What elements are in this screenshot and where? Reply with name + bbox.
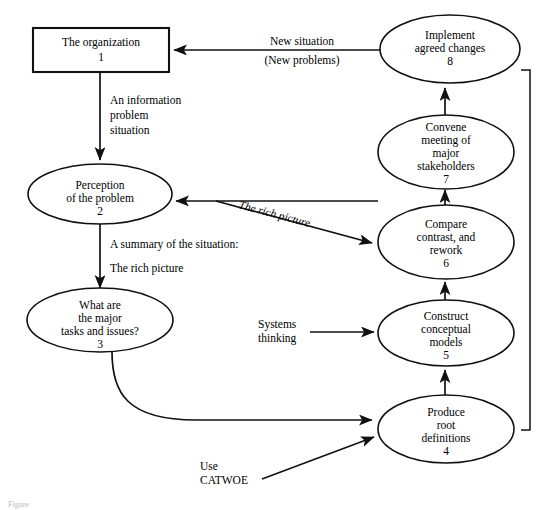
node-1-shape bbox=[33, 28, 169, 72]
edge-tasks-to-rootdefs bbox=[112, 352, 372, 420]
edge-label-an-information-problem-situation: An information problem situation bbox=[110, 94, 181, 136]
catwoe-line1: Use bbox=[200, 460, 218, 472]
node-4-number: 4 bbox=[443, 445, 449, 457]
node-convene-meeting-of-major-stakeholders[interactable]: Convene meeting of major stakeholders 7 bbox=[378, 115, 514, 189]
node-4-line2: root bbox=[437, 419, 456, 431]
diagram-canvas: The organization 1 Perception of the pro… bbox=[0, 0, 540, 510]
edge-label-the-rich-picture: The rich picture bbox=[237, 198, 312, 230]
edge-label-new-situation: New situation (New problems) bbox=[264, 35, 339, 67]
rich-picture-label: The rich picture bbox=[237, 198, 312, 230]
an-information-line2: problem bbox=[110, 109, 148, 122]
node-2-line2: of the problem bbox=[66, 192, 134, 205]
flow-diagram: The organization 1 Perception of the pro… bbox=[0, 0, 540, 510]
edge-catwoe-to-rootdefs bbox=[262, 437, 374, 479]
node-3-number: 3 bbox=[97, 338, 103, 350]
node-7-number: 7 bbox=[443, 173, 449, 185]
node-the-organization[interactable]: The organization 1 bbox=[33, 28, 169, 72]
node-compare-contrast-and-rework[interactable]: Compare contrast, and rework 6 bbox=[378, 205, 514, 279]
node-7-line1: Convene bbox=[426, 121, 467, 133]
node-1-line1: The organization bbox=[62, 36, 140, 49]
node-6-line2: contrast, and bbox=[417, 231, 476, 244]
node-3-line1: What are bbox=[79, 299, 121, 311]
node-5-line1: Construct bbox=[424, 310, 470, 322]
systems-thinking-line2: thinking bbox=[258, 332, 297, 345]
node-6-number: 6 bbox=[443, 257, 449, 269]
node-3-line3: tasks and issues? bbox=[61, 325, 139, 337]
node-6-line3: rework bbox=[430, 244, 463, 256]
node-4-line3: definitions bbox=[421, 432, 471, 444]
new-situation-line2: (New problems) bbox=[264, 54, 339, 67]
an-information-line1: An information bbox=[110, 94, 181, 106]
node-8-line1: Implement bbox=[425, 29, 476, 42]
node-5-line2: conceptual bbox=[421, 323, 471, 336]
figure-caption: Figure bbox=[8, 500, 29, 509]
node-implement-agreed-changes[interactable]: Implement agreed changes 8 bbox=[380, 15, 520, 83]
catwoe-line2: CATWOE bbox=[200, 474, 248, 486]
node-7-line4: stakeholders bbox=[417, 160, 475, 172]
node-5-line3: models bbox=[429, 336, 463, 348]
node-what-are-the-major-tasks-and-issues[interactable]: What are the major tasks and issues? 3 bbox=[27, 288, 173, 352]
summary-line2: The rich picture bbox=[110, 262, 183, 275]
node-produce-root-definitions[interactable]: Produce root definitions 4 bbox=[378, 395, 514, 463]
summary-line1: A summary of the situation: bbox=[110, 238, 238, 251]
edge-label-systems-thinking: Systems thinking bbox=[258, 318, 297, 345]
node-7-line3: major bbox=[433, 147, 460, 160]
node-6-line1: Compare bbox=[425, 218, 467, 231]
node-1-number: 1 bbox=[98, 51, 104, 63]
new-situation-line1: New situation bbox=[270, 35, 334, 47]
edge-label-a-summary-of-the-situation: A summary of the situation: The rich pic… bbox=[110, 238, 238, 275]
node-2-line1: Perception bbox=[75, 179, 124, 192]
node-3-line2: the major bbox=[78, 312, 122, 325]
systems-thinking-line1: Systems bbox=[258, 318, 297, 331]
node-8-line2: agreed changes bbox=[415, 42, 486, 55]
node-construct-conceptual-models[interactable]: Construct conceptual models 5 bbox=[378, 300, 514, 366]
edge-label-use-catwoe: Use CATWOE bbox=[200, 460, 248, 486]
node-perception-of-the-problem[interactable]: Perception of the problem 2 bbox=[28, 164, 172, 224]
node-5-number: 5 bbox=[443, 349, 449, 361]
node-8-number: 8 bbox=[447, 55, 453, 67]
edge-right-return-spine bbox=[521, 70, 530, 430]
node-4-line1: Produce bbox=[427, 406, 465, 418]
node-2-number: 2 bbox=[97, 205, 103, 217]
node-7-line2: meeting of bbox=[421, 134, 471, 147]
an-information-line3: situation bbox=[110, 124, 150, 136]
